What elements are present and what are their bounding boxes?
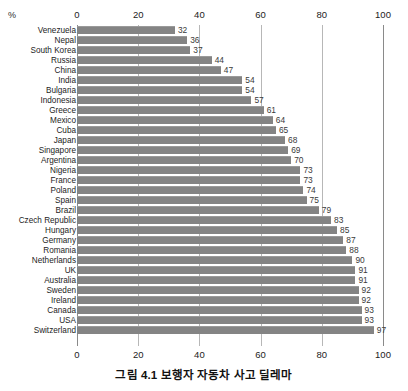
bar-row: Mexico64 bbox=[0, 115, 408, 125]
figure-container: % 020406080100 Venezuela32Nepal36South K… bbox=[0, 0, 408, 391]
bar-track: 70 bbox=[77, 155, 383, 165]
category-label-hungary: Hungary bbox=[45, 226, 76, 235]
category-label-argentina: Argentina bbox=[41, 156, 76, 165]
bar-track: 68 bbox=[77, 135, 383, 145]
bar bbox=[77, 286, 359, 294]
bar-value-label: 88 bbox=[346, 245, 358, 255]
bar-value-label: 93 bbox=[362, 305, 374, 315]
bar-track: 64 bbox=[77, 115, 383, 125]
category-label-cuba: Cuba bbox=[56, 126, 76, 135]
x-axis-ticks-bottom: 020406080100 bbox=[77, 349, 383, 363]
bar bbox=[77, 176, 300, 184]
bar-track: 54 bbox=[77, 75, 383, 85]
category-label-singapore: Singapore bbox=[39, 146, 76, 155]
bar-row: Nigeria73 bbox=[0, 165, 408, 175]
bar-value-label: 93 bbox=[362, 315, 374, 325]
figure-caption: 그림 4.1 보행자 자동차 사고 딜레마 bbox=[0, 366, 408, 382]
category-label-switzerland: Switzerland bbox=[34, 326, 76, 335]
bar bbox=[77, 206, 319, 214]
bar-value-label: 54 bbox=[242, 85, 254, 95]
category-label-czech-republic: Czech Republic bbox=[19, 216, 76, 225]
category-label-uk: UK bbox=[65, 266, 76, 275]
category-label-greece: Greece bbox=[49, 106, 76, 115]
category-label-spain: Spain bbox=[55, 196, 76, 205]
bar-track: 92 bbox=[77, 285, 383, 295]
bar-value-label: 97 bbox=[374, 325, 386, 335]
bar-row: Romania88 bbox=[0, 245, 408, 255]
bar-track: 93 bbox=[77, 315, 383, 325]
bar-value-label: 79 bbox=[319, 205, 331, 215]
bar-row: Argentina70 bbox=[0, 155, 408, 165]
bar-row: USA93 bbox=[0, 315, 408, 325]
category-label-brazil: Brazil bbox=[56, 206, 76, 215]
bar bbox=[77, 316, 362, 324]
bar-row: China47 bbox=[0, 65, 408, 75]
bar-track: 37 bbox=[77, 45, 383, 55]
bar bbox=[77, 36, 187, 44]
bar-row: Russia44 bbox=[0, 55, 408, 65]
bar bbox=[77, 96, 251, 104]
bar bbox=[77, 196, 307, 204]
bar-row: South Korea37 bbox=[0, 45, 408, 55]
category-label-bulgaria: Bulgaria bbox=[46, 86, 76, 95]
bar-track: 79 bbox=[77, 205, 383, 215]
bar-row: France73 bbox=[0, 175, 408, 185]
bar-row: UK91 bbox=[0, 265, 408, 275]
bar-row: Spain75 bbox=[0, 195, 408, 205]
bar-track: 92 bbox=[77, 295, 383, 305]
bar bbox=[77, 326, 374, 334]
bar-value-label: 37 bbox=[190, 45, 202, 55]
bar-track: 83 bbox=[77, 215, 383, 225]
bar-row: Venezuela32 bbox=[0, 25, 408, 35]
bar-row: Ireland92 bbox=[0, 295, 408, 305]
bar-track: 75 bbox=[77, 195, 383, 205]
bar-value-label: 65 bbox=[276, 125, 288, 135]
category-label-china: China bbox=[55, 66, 76, 75]
bar-value-label: 92 bbox=[359, 285, 371, 295]
x-tick-label-100: 100 bbox=[375, 9, 391, 20]
bar-track: 73 bbox=[77, 175, 383, 185]
bar bbox=[77, 266, 355, 274]
bar-value-label: 83 bbox=[331, 215, 343, 225]
category-label-nepal: Nepal bbox=[55, 36, 76, 45]
bar-row: Germany87 bbox=[0, 235, 408, 245]
bar bbox=[77, 86, 242, 94]
category-label-japan: Japan bbox=[54, 136, 76, 145]
category-label-sweden: Sweden bbox=[46, 286, 76, 295]
bar-track: 85 bbox=[77, 225, 383, 235]
category-label-poland: Poland bbox=[51, 186, 77, 195]
bar bbox=[77, 66, 221, 74]
category-label-russia: Russia bbox=[51, 56, 76, 65]
bar-track: 36 bbox=[77, 35, 383, 45]
bar bbox=[77, 26, 175, 34]
bar-value-label: 75 bbox=[307, 195, 319, 205]
bar-track: 91 bbox=[77, 275, 383, 285]
category-label-mexico: Mexico bbox=[50, 116, 76, 125]
bar-row: Singapore69 bbox=[0, 145, 408, 155]
bar bbox=[77, 276, 355, 284]
category-label-france: France bbox=[51, 176, 76, 185]
bar-track: 44 bbox=[77, 55, 383, 65]
bar-row: Greece61 bbox=[0, 105, 408, 115]
category-label-indonesia: Indonesia bbox=[40, 96, 76, 105]
bar-value-label: 61 bbox=[264, 105, 276, 115]
bar-row: Czech Republic83 bbox=[0, 215, 408, 225]
bar-value-label: 69 bbox=[288, 145, 300, 155]
bar-value-label: 73 bbox=[300, 175, 312, 185]
x-axis-ticks-top: 020406080100 bbox=[77, 9, 383, 23]
bar bbox=[77, 56, 212, 64]
x-tick-label-60: 60 bbox=[255, 9, 266, 20]
bar-row: Sweden92 bbox=[0, 285, 408, 295]
x-tick-label-80: 80 bbox=[317, 9, 328, 20]
bar-rows: Venezuela32Nepal36South Korea37Russia44C… bbox=[0, 25, 408, 346]
bar bbox=[77, 306, 362, 314]
bar-row: Canada93 bbox=[0, 305, 408, 315]
bar-row: Hungary85 bbox=[0, 225, 408, 235]
bar-track: 90 bbox=[77, 255, 383, 265]
bar-value-label: 91 bbox=[355, 275, 367, 285]
bar bbox=[77, 236, 343, 244]
bar bbox=[77, 106, 264, 114]
x-tick-label-0: 0 bbox=[74, 349, 79, 360]
category-label-south-korea: South Korea bbox=[30, 46, 76, 55]
bar bbox=[77, 226, 337, 234]
